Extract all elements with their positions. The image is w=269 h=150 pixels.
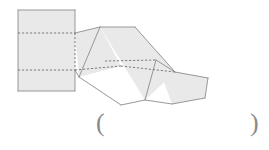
panel-1-front-rectangle [18, 10, 75, 91]
answer-open-paren: ( [96, 108, 105, 138]
panel-fill-group [18, 10, 208, 104]
answer-close-paren: ) [250, 108, 259, 138]
answer-row: ( ) [0, 108, 269, 142]
edge-panel2-bottom [75, 70, 79, 77]
edge-panel4-left [145, 100, 172, 104]
answer-blank-field[interactable] [108, 112, 248, 136]
edge-panel2-lower-left [79, 77, 121, 105]
edge-panel3-bottom [121, 100, 145, 105]
